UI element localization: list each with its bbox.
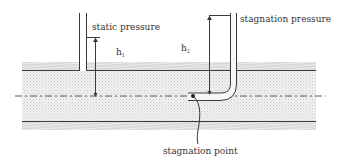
h1-arrowhead-up — [93, 38, 98, 43]
h1-label: h1 — [116, 47, 125, 58]
pipe-fluid — [22, 70, 316, 121]
pitot-static-diagram: static pressure stagnation pressure h1 h… — [0, 0, 343, 167]
h2-label: h2 — [181, 43, 190, 54]
stagnation-point-label: stagnation point — [163, 146, 238, 156]
upper-pipe-wall — [22, 62, 316, 70]
h1-subscript: 1 — [122, 52, 125, 58]
static-pressure-label: static pressure — [92, 22, 160, 32]
h2-arrowhead-up — [207, 16, 212, 21]
lower-pipe-wall — [22, 121, 316, 130]
stagnation-pressure-label: stagnation pressure — [240, 14, 331, 24]
h2-subscript: 2 — [187, 48, 190, 54]
static-tube-bore — [80, 13, 87, 71]
